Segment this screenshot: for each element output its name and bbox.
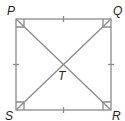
vertex-label-s: S	[5, 110, 13, 121]
vertex-label-r: R	[112, 110, 121, 121]
square-diagram	[0, 0, 125, 121]
vertex-label-p: P	[7, 5, 15, 17]
vertex-label-q: Q	[113, 5, 122, 17]
center-label-t: T	[58, 70, 65, 82]
